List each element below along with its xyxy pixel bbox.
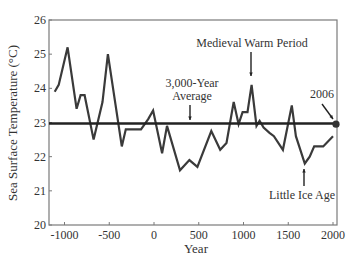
x-tick-label: 1000 <box>232 228 256 242</box>
arrow-medieval-warm-period-head <box>249 72 252 76</box>
x-axis-label: Year <box>184 241 209 256</box>
arrow-little-ice-age-head <box>302 169 305 173</box>
marker-2006-dot <box>332 121 339 128</box>
annotation-medieval-warm-period: Medieval Warm Period <box>196 36 307 50</box>
y-axis-label: Sea Surface Temperature (°C) <box>5 45 20 201</box>
sea-surface-temperature-chart: 20212223242526 -1000-5000500100015002000… <box>0 0 361 262</box>
annotation-average-line2: Average <box>172 89 212 103</box>
y-tick-label: 25 <box>34 47 46 61</box>
annotations: Medieval Warm Period3,000-YearAverage200… <box>165 36 335 202</box>
y-tick-label: 20 <box>34 218 46 232</box>
y-tick-label: 23 <box>34 116 46 130</box>
y-tick-label: 24 <box>34 81 46 95</box>
temperature-line <box>55 47 333 170</box>
x-tick-label: 2000 <box>321 228 345 242</box>
arrow-average-head <box>188 116 191 120</box>
annotation-average-line1: 3,000-Year <box>165 76 218 90</box>
y-tick-label: 21 <box>34 184 46 198</box>
x-tick-label: 500 <box>190 228 208 242</box>
annotation-2006: 2006 <box>310 87 334 101</box>
data-series <box>49 47 340 170</box>
x-tick-label: -1000 <box>51 228 79 242</box>
annotation-little-ice-age: Little Ice Age <box>269 188 335 202</box>
x-tick-label: 1500 <box>276 228 300 242</box>
x-tick-label: 0 <box>151 228 157 242</box>
y-tick-label: 22 <box>34 150 46 164</box>
y-tick-label: 26 <box>34 13 46 27</box>
x-tick-label: -500 <box>98 228 120 242</box>
